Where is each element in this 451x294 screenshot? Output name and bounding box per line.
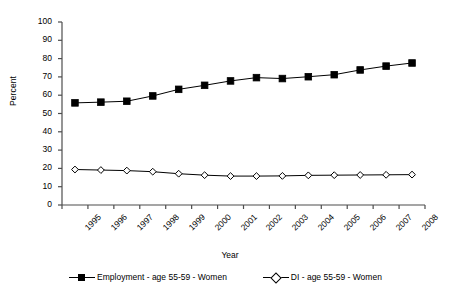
legend-label-di: DI - age 55-59 - Women [291,272,382,282]
legend-marker-filled-square-icon [69,272,95,282]
y-tick-label: 0 [26,200,52,209]
y-tick-label: 30 [26,145,52,154]
legend-item-di[interactable]: DI - age 55-59 - Women [263,272,382,282]
y-axis-title: Percent [8,56,18,126]
axes [58,22,425,209]
line-chart: Percent Year 0102030405060708090100 1995… [0,0,451,294]
x-axis-title: Year [150,250,310,260]
legend-label-employment: Employment - age 55-59 - Women [97,272,227,282]
y-tick-label: 90 [26,35,52,44]
y-tick-label: 70 [26,72,52,81]
chart-legend: Employment - age 55-59 - Women DI - age … [0,272,451,282]
y-tick-label: 100 [26,17,52,26]
y-tick-label: 80 [26,54,52,63]
y-tick-label: 50 [26,109,52,118]
data-series [72,60,416,180]
legend-marker-open-diamond-icon [263,272,289,282]
y-tick-label: 10 [26,182,52,191]
legend-item-employment[interactable]: Employment - age 55-59 - Women [69,272,227,282]
y-tick-label: 40 [26,127,52,136]
y-tick-label: 20 [26,163,52,172]
y-tick-label: 60 [26,90,52,99]
